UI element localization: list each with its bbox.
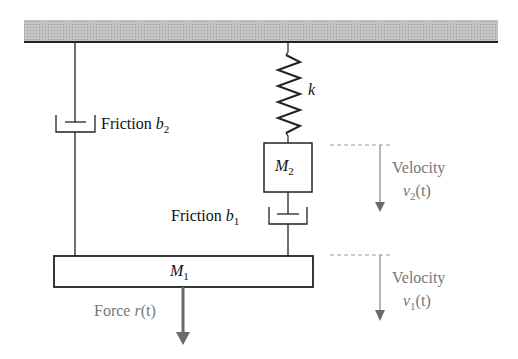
spring-k [278, 42, 300, 143]
label-v2t: v2(t) [403, 183, 431, 202]
diagram-canvas [0, 0, 518, 359]
label-spring-k: k [308, 82, 315, 98]
label-velocity1: Velocity [392, 270, 445, 286]
label-m1: M1 [170, 263, 189, 282]
label-friction-b2: Friction b2 [101, 116, 169, 135]
label-m2: M2 [275, 158, 294, 177]
ceiling [24, 20, 498, 42]
label-friction-b1: Friction b1 [171, 208, 239, 227]
damper-b1 [269, 192, 307, 256]
label-force: Force r(t) [94, 303, 156, 319]
velocity2-arrow [375, 145, 385, 212]
label-v1t: v1(t) [403, 293, 431, 312]
velocity1-arrow [375, 255, 385, 321]
label-velocity2: Velocity [392, 160, 445, 176]
damper-b2 [56, 42, 95, 256]
force-arrow [176, 287, 190, 345]
